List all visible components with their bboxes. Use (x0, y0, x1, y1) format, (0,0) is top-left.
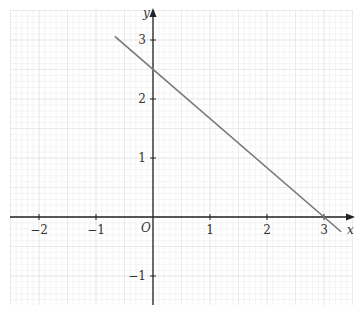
x-tick-label: 2 (263, 223, 271, 237)
grid-major (10, 10, 353, 305)
x-tick-label: 3 (320, 223, 328, 237)
labels: x y O (141, 6, 354, 237)
y-tick-label: 2 (138, 92, 146, 106)
x-tick-label: −2 (30, 223, 48, 237)
x-tick-label: 1 (206, 223, 214, 237)
y-tick-label: 3 (138, 33, 146, 47)
y-tick-label: −1 (128, 269, 146, 283)
x-axis-arrow-icon (346, 214, 355, 221)
y-axis-arrow-icon (150, 8, 157, 17)
chart-plot: −2−1123−1123 x y O (0, 0, 363, 316)
x-tick-label: −1 (87, 223, 105, 237)
y-axis-label: y (142, 6, 150, 20)
x-axis-label: x (347, 223, 354, 237)
origin-label: O (141, 221, 151, 235)
y-tick-label: 1 (138, 151, 146, 165)
